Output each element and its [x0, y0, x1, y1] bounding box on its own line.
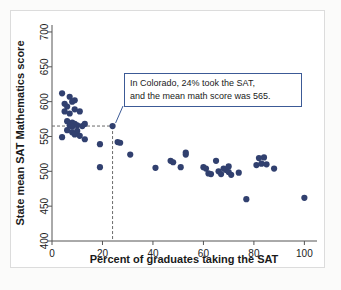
- data-point: [127, 152, 133, 158]
- scatter-plot: 400450500550600650700 020406080100 Perce…: [11, 11, 324, 267]
- plot-background: [11, 11, 324, 267]
- data-point: [261, 154, 267, 160]
- data-point: [77, 133, 83, 139]
- data-point: [117, 140, 123, 146]
- y-tick-label: 700: [39, 23, 50, 40]
- x-tick-label: 100: [296, 248, 313, 259]
- y-tick-label: 450: [39, 197, 50, 214]
- data-point: [263, 161, 269, 167]
- data-point: [236, 170, 242, 176]
- data-point: [77, 108, 83, 114]
- data-point: [208, 171, 214, 177]
- data-point: [109, 123, 115, 129]
- figure-screenshot: 400450500550600650700 020406080100 Perce…: [0, 0, 341, 290]
- data-point: [228, 172, 234, 178]
- data-point: [67, 110, 73, 116]
- data-point: [82, 136, 88, 142]
- x-tick-label: 0: [49, 248, 55, 259]
- y-tick-label: 400: [39, 232, 50, 249]
- callout-box: In Colorado, 24% took the SAT, and the m…: [124, 73, 302, 107]
- data-point: [97, 141, 103, 147]
- data-point: [59, 90, 65, 96]
- data-point: [97, 164, 103, 170]
- data-point: [243, 196, 249, 202]
- y-tick-label: 550: [39, 128, 50, 145]
- data-point: [59, 134, 65, 140]
- data-point: [301, 195, 307, 201]
- chart-panel: 400450500550600650700 020406080100 Perce…: [10, 10, 325, 268]
- data-point: [178, 164, 184, 170]
- data-point: [82, 121, 88, 127]
- y-tick-label: 600: [39, 93, 50, 110]
- data-point: [183, 152, 189, 158]
- data-point: [152, 165, 158, 171]
- data-point: [271, 165, 277, 171]
- data-point: [69, 99, 75, 105]
- y-tick-label: 650: [39, 58, 50, 75]
- y-tick-label: 500: [39, 163, 50, 180]
- data-point: [213, 158, 219, 164]
- data-point: [170, 159, 176, 165]
- data-point: [218, 171, 224, 177]
- y-axis-title: State mean SAT Mathematics score: [14, 40, 26, 225]
- x-axis-title: Percent of graduates taking the SAT: [90, 253, 279, 265]
- callout-line-2: and the mean math score was 565.: [130, 90, 296, 103]
- callout-line-1: In Colorado, 24% took the SAT,: [130, 77, 296, 90]
- data-point: [226, 163, 232, 169]
